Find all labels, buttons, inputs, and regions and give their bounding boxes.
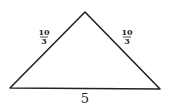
base-label: 5 <box>81 91 89 106</box>
triangle-diagram: 10 3 10 3 5 <box>0 0 170 110</box>
right-side-label: 10 3 <box>121 27 133 46</box>
triangle <box>10 12 160 89</box>
left-side-label: 10 3 <box>38 27 50 46</box>
left-denominator: 3 <box>41 36 47 46</box>
right-denominator: 3 <box>124 36 130 46</box>
